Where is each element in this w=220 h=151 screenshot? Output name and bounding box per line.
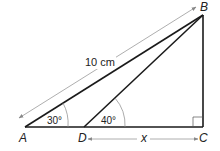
length-label-ab: 10 cm — [85, 56, 115, 68]
vertex-label-d: D — [78, 131, 87, 145]
segment-db — [84, 15, 203, 127]
triangle-diagram: 10 cm 30° 40° A D C B x — [0, 0, 220, 151]
vertex-label-c: C — [199, 131, 208, 145]
angle-arc-d — [115, 98, 125, 127]
angle-label-a: 30° — [47, 115, 62, 126]
vertex-label-a: A — [18, 131, 27, 145]
angle-label-d: 40° — [101, 115, 116, 126]
length-label-dc: x — [140, 131, 148, 145]
diagram-canvas: 10 cm 30° 40° A D C B x — [0, 0, 220, 151]
segment-ab — [25, 15, 203, 127]
vertex-label-b: B — [200, 0, 208, 14]
right-angle-marker — [193, 117, 203, 127]
angle-arc-a — [63, 103, 68, 127]
